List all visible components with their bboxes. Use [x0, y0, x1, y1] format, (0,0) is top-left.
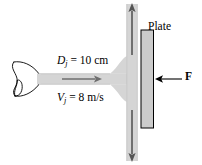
- jet-velocity-value: = 8 m/s: [66, 91, 103, 103]
- nozzle-throat: [37, 74, 41, 85]
- jet-diameter-label: Dj = 10 cm: [57, 55, 108, 69]
- figure-diagram: [0, 0, 202, 165]
- jet-velocity-label: Vj = 8 m/s: [57, 92, 104, 106]
- nozzle: [12, 62, 41, 97]
- lower-flare-fillet: [110, 84, 127, 102]
- force-arrow: [155, 75, 182, 82]
- jet-velocity-symbol: V: [57, 91, 64, 103]
- jet-impact-figure: Dj = 10 cm Vj = 8 m/s Plate F: [0, 0, 202, 165]
- upper-flare-fillet: [110, 56, 127, 74]
- force-label: F: [185, 71, 192, 83]
- plate-label: Plate: [148, 21, 171, 33]
- jet-diameter-value: = 10 cm: [68, 54, 109, 66]
- plate-body: [141, 30, 154, 128]
- water-streams: [37, 4, 138, 161]
- flat-plate: [141, 30, 154, 128]
